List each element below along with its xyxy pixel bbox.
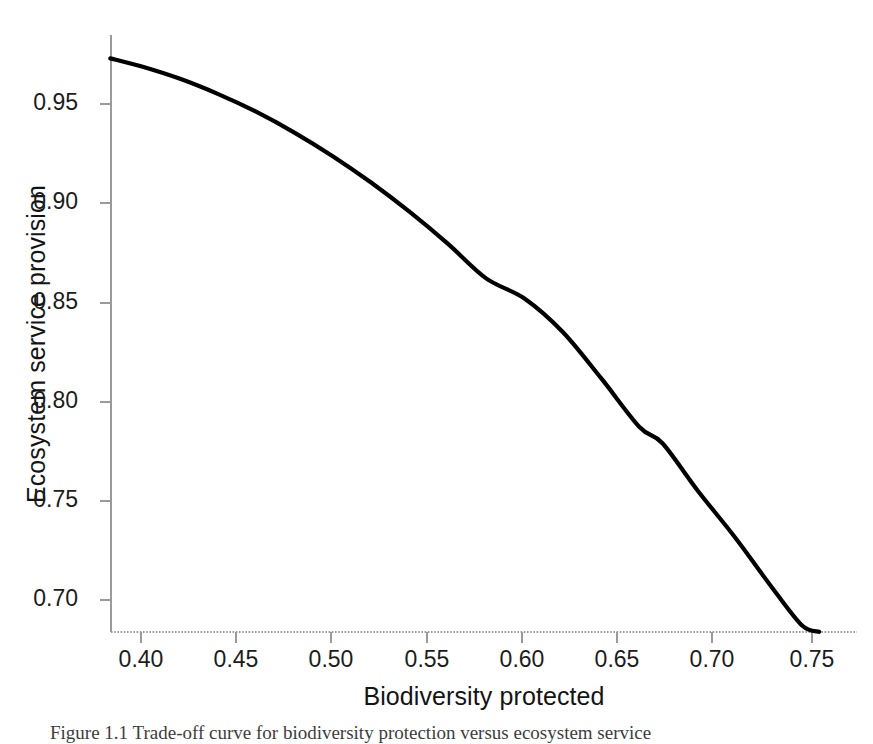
figure-caption: Figure 1.1 Trade-off curve for biodivers… [50, 722, 840, 744]
x-tick-label-0.50: 0.50 [286, 646, 376, 673]
y-axis-title: Ecosystem service provision [14, 24, 58, 664]
x-tick-label-0.60: 0.60 [477, 646, 567, 673]
y-tick-label-0.70: 0.70 [0, 585, 78, 612]
x-axis-title: Biodiversity protected [111, 682, 857, 711]
y-tick-label-0.85: 0.85 [0, 288, 78, 315]
x-tick-label-0.75: 0.75 [767, 646, 857, 673]
data-series-trade-off-curve [110, 58, 819, 631]
x-tick-label-0.40: 0.40 [96, 646, 186, 673]
y-tick-label-0.90: 0.90 [0, 188, 78, 215]
y-tick-label-0.80: 0.80 [0, 387, 78, 414]
x-tick-label-0.45: 0.45 [191, 646, 281, 673]
x-tick-label-0.65: 0.65 [572, 646, 662, 673]
y-tick-label-0.75: 0.75 [0, 486, 78, 513]
x-tick-label-0.55: 0.55 [382, 646, 472, 673]
x-tick-label-0.70: 0.70 [667, 646, 757, 673]
y-tick-label-0.95: 0.95 [0, 89, 78, 116]
